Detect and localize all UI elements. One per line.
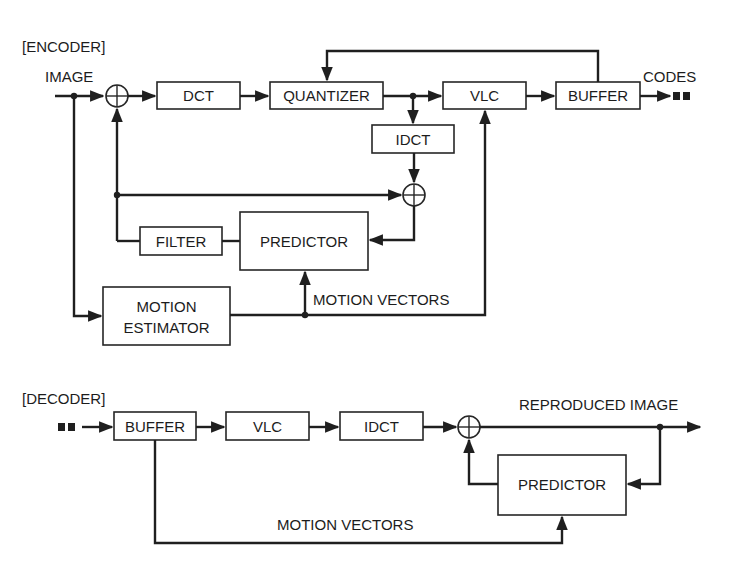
image-to-motion-estimator-line — [74, 96, 101, 316]
decoder-predictor-block: PREDICTOR — [498, 455, 626, 515]
decoder-buffer-block: BUFFER — [114, 412, 196, 440]
decoder-vlc-block: VLC — [226, 412, 309, 440]
decoder-adder — [458, 416, 480, 438]
svg-text:QUANTIZER: QUANTIZER — [283, 87, 370, 104]
encoder-buffer-block: BUFFER — [556, 82, 640, 109]
encoder-section: [ENCODER] IMAGE DCT QUANTIZER VLC — [22, 38, 696, 345]
output-to-predictor-line — [628, 427, 660, 484]
encoder-filter-block: FILTER — [140, 227, 222, 255]
decoder-motion-vectors-label: MOTION VECTORS — [277, 516, 413, 533]
svg-text:BUFFER: BUFFER — [568, 87, 628, 104]
svg-text:IDCT: IDCT — [396, 131, 431, 148]
encoder-motion-vectors-label: MOTION VECTORS — [313, 291, 449, 308]
encoder-section-label: [ENCODER] — [22, 38, 105, 55]
encoder-output-label: CODES — [643, 68, 696, 85]
svg-text:PREDICTOR: PREDICTOR — [518, 476, 606, 493]
encoder-input-label: IMAGE — [45, 68, 93, 85]
encoder-dct-block: DCT — [157, 82, 240, 109]
input-square-icon — [68, 423, 75, 431]
encoder-quantizer-block: QUANTIZER — [270, 82, 383, 109]
encoder-idct-block: IDCT — [372, 125, 454, 153]
encoder-reconstruct-adder — [403, 184, 425, 206]
svg-text:IDCT: IDCT — [364, 418, 399, 435]
adder-to-predictor-line — [370, 206, 414, 240]
decoder-idct-block: IDCT — [340, 412, 423, 440]
motion-vectors-branch-dot — [302, 312, 308, 318]
encoder-predictor-block: PREDICTOR — [240, 212, 368, 270]
predictor-to-adder-line — [469, 440, 498, 484]
decoder-section: [DECODER] BUFFER VLC IDCT REPRODUCED IMA… — [22, 390, 700, 543]
svg-text:MOTION: MOTION — [137, 298, 197, 315]
codes-square-icon — [683, 92, 690, 100]
svg-text:FILTER: FILTER — [156, 233, 207, 250]
decoder-output-label: REPRODUCED IMAGE — [519, 396, 678, 413]
encoder-vlc-block: VLC — [443, 82, 526, 109]
svg-text:ESTIMATOR: ESTIMATOR — [123, 319, 209, 336]
svg-text:BUFFER: BUFFER — [125, 418, 185, 435]
input-square-icon — [58, 423, 65, 431]
codec-block-diagram: [ENCODER] IMAGE DCT QUANTIZER VLC — [0, 0, 733, 565]
svg-text:DCT: DCT — [183, 87, 214, 104]
svg-text:PREDICTOR: PREDICTOR — [260, 233, 348, 250]
encoder-subtract-adder — [106, 85, 128, 107]
decoder-section-label: [DECODER] — [22, 390, 105, 407]
svg-text:VLC: VLC — [253, 418, 282, 435]
encoder-motion-estimator-block: MOTION ESTIMATOR — [103, 287, 230, 345]
buffer-feedback-line — [327, 51, 598, 82]
codes-square-icon — [673, 92, 680, 100]
svg-text:VLC: VLC — [470, 87, 499, 104]
